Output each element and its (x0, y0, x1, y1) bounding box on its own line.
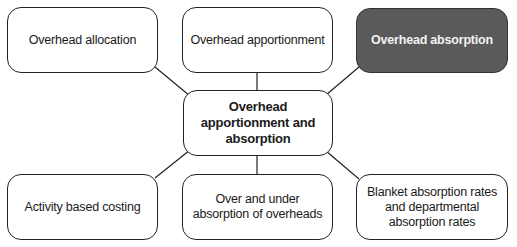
node-over-under-absorption: Over and under absorption of overheads (182, 174, 333, 240)
node-label: Overhead allocation (29, 33, 136, 48)
node-overhead-absorption-highlighted: Overhead absorption (356, 8, 508, 73)
node-overhead-allocation: Overhead allocation (7, 7, 158, 73)
node-activity-based-costing: Activity based costing (7, 174, 158, 240)
connector-bottom-left (155, 150, 190, 178)
node-center-topic: Overhead apportionment and absorption (183, 90, 333, 156)
connector-top-right (326, 67, 359, 95)
connector-bottom-right (326, 151, 359, 179)
node-blanket-departmental-rates: Blanket absorption rates and departmenta… (356, 174, 508, 240)
connector-top-left (155, 67, 190, 96)
node-label: Overhead absorption (371, 33, 493, 48)
node-label: Blanket absorption rates and departmenta… (363, 185, 501, 230)
node-label: Activity based costing (25, 200, 141, 215)
node-overhead-apportionment: Overhead apportionment (182, 7, 333, 73)
center-label: Overhead apportionment and absorption (190, 99, 326, 147)
node-label: Overhead apportionment (191, 33, 325, 48)
node-label: Over and under absorption of overheads (189, 192, 326, 222)
